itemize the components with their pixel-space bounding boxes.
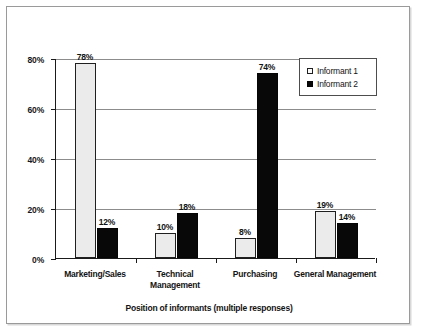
bar-purchasing-series-2: 74% [257, 73, 278, 258]
y-axis-tick-label: 80% [28, 55, 44, 65]
bar-value-label: 10% [157, 222, 173, 232]
gridline [56, 109, 376, 110]
open-square-swatch [307, 68, 313, 74]
bar-value-label: 74% [259, 62, 275, 72]
y-axis-tick-mark: 60% [51, 109, 56, 110]
bar-value-label: 12% [99, 217, 115, 227]
x-axis-tick-mark [376, 258, 377, 263]
y-axis-tick-label: 20% [28, 205, 44, 215]
bar-marketing-sales-series-2: 12% [97, 228, 118, 258]
x-axis-tick-mark [136, 258, 137, 263]
x-axis-title: Position of informants (multiple respons… [7, 303, 411, 313]
bar-technical-management-series-2: 18% [177, 213, 198, 258]
filled-square-swatch [307, 81, 313, 87]
y-axis-tick-mark: 40% [51, 159, 56, 160]
x-axis-tick-mark [216, 258, 217, 263]
y-axis-tick-mark: 0% [51, 259, 56, 260]
legend-item-2: Informant 2 [307, 77, 371, 90]
bar-purchasing-series-1: 8% [235, 238, 256, 258]
legend-item-label: Informant 1 [317, 66, 358, 76]
y-axis-tick-mark: 20% [51, 209, 56, 210]
bar-marketing-sales-series-1: 78% [75, 63, 96, 258]
gridline [56, 159, 376, 160]
bar-value-label: 14% [339, 212, 355, 222]
bar-value-label: 18% [179, 202, 195, 212]
bar-general-management-series-1: 19% [315, 211, 336, 259]
bar-value-label: 78% [77, 52, 93, 62]
y-axis-tick-label: 60% [28, 105, 44, 115]
bar-value-label: 19% [317, 200, 333, 210]
y-axis-tick-label: 0% [32, 255, 44, 265]
y-axis-tick-label: 40% [28, 155, 44, 165]
x-axis-category-label: General Management [283, 269, 387, 280]
bar-general-management-series-2: 14% [337, 223, 358, 258]
y-axis-tick-mark: 80% [51, 59, 56, 60]
legend-item-label: Informant 2 [317, 79, 358, 89]
figure-frame: 0%20%40%60%80%78%12%10%18%8%74%19%14% Po… [6, 6, 410, 324]
bar-technical-management-series-1: 10% [155, 233, 176, 258]
legend-item-1: Informant 1 [307, 64, 371, 77]
chart-legend: Informant 1Informant 2 [299, 58, 377, 96]
bar-value-label: 8% [239, 227, 251, 237]
x-axis-tick-mark [296, 258, 297, 263]
